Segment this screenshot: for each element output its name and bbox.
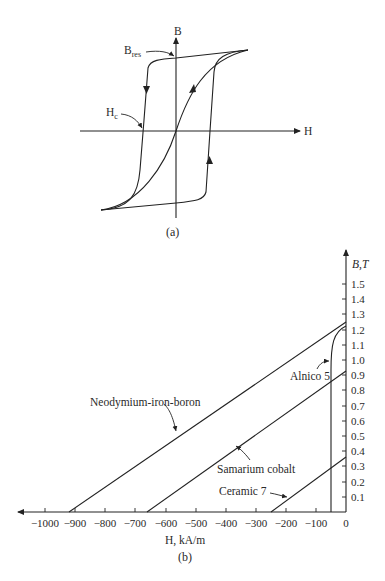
- b-x-tick-labels: −1000 −900 −800 −700 −600 −500 −400 −300…: [31, 517, 349, 529]
- svg-text:1.4: 1.4: [351, 293, 365, 305]
- label-alnico5: Alnico 5: [290, 370, 330, 382]
- label-smco: Samarium cobalt: [217, 463, 296, 475]
- ndfeb-leader: [164, 404, 176, 431]
- svg-text:−400: −400: [215, 517, 238, 529]
- svg-text:−100: −100: [305, 517, 328, 529]
- series-ndfeb: [69, 322, 346, 512]
- a-arrow-up-icon: [189, 84, 196, 93]
- a-ascending-branch: [101, 50, 248, 210]
- alnico-leader: [317, 361, 329, 369]
- series-alnico5: [331, 326, 346, 512]
- b-y-axis-label: B,T: [352, 258, 370, 271]
- svg-text:0.8: 0.8: [351, 384, 365, 396]
- svg-text:1.2: 1.2: [351, 324, 365, 336]
- svg-text:1.1: 1.1: [351, 339, 365, 351]
- svg-text:0.7: 0.7: [351, 400, 365, 412]
- a-descending-branch: [101, 50, 248, 210]
- svg-text:1.5: 1.5: [351, 278, 365, 290]
- a-arrow-down-icon: [143, 86, 150, 94]
- svg-text:0.9: 0.9: [351, 369, 365, 381]
- svg-text:−600: −600: [155, 517, 178, 529]
- panel-a-hysteresis: [80, 38, 300, 218]
- a-b-axis-label: B: [174, 25, 182, 37]
- svg-text:1.3: 1.3: [351, 308, 365, 320]
- svg-text:−300: −300: [245, 517, 268, 529]
- svg-text:0.3: 0.3: [351, 460, 365, 472]
- svg-text:−700: −700: [124, 517, 147, 529]
- svg-text:0.4: 0.4: [351, 445, 365, 457]
- b-y-tick-labels: 0.1 0.2 0.3 0.4 0.5 0.6 0.7 0.8 0.9 1.0 …: [351, 278, 365, 503]
- b-y-ticks: [342, 284, 346, 497]
- a-hc-leader: [121, 114, 142, 128]
- svg-text:−200: −200: [275, 517, 298, 529]
- svg-text:0.2: 0.2: [351, 476, 365, 488]
- b-caption: (b): [178, 550, 192, 564]
- a-bres-leader: [146, 51, 174, 56]
- svg-text:−500: −500: [185, 517, 208, 529]
- a-bres-label: Bres: [124, 44, 141, 59]
- a-h-axis-label: H: [304, 125, 312, 137]
- label-ndfeb: Neodymium-iron-boron: [90, 396, 201, 409]
- ceramic-leader: [270, 493, 287, 497]
- svg-text:0: 0: [343, 517, 349, 529]
- svg-text:0.5: 0.5: [351, 430, 365, 442]
- a-initial-curve: [101, 50, 248, 210]
- svg-text:−800: −800: [94, 517, 117, 529]
- svg-text:1.0: 1.0: [351, 354, 365, 366]
- panel-b-labels: 0.1 0.2 0.3 0.4 0.5 0.6 0.7 0.8 0.9 1.0 …: [31, 258, 370, 564]
- figure: B H Bres Hc (a): [0, 0, 385, 581]
- svg-text:−900: −900: [64, 517, 87, 529]
- a-arrow-up-right-icon: [206, 156, 213, 164]
- a-hc-label: Hc: [106, 106, 118, 121]
- svg-text:−1000: −1000: [31, 517, 60, 529]
- b-x-axis-label: H, kA/m: [165, 534, 205, 547]
- svg-text:0.1: 0.1: [351, 491, 365, 503]
- a-caption: (a): [166, 225, 179, 239]
- label-ceramic7: Ceramic 7: [219, 485, 267, 497]
- svg-text:0.6: 0.6: [351, 415, 365, 427]
